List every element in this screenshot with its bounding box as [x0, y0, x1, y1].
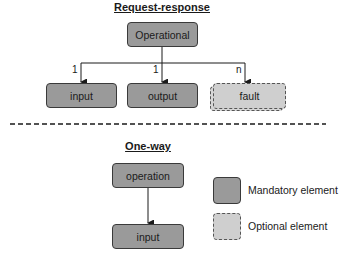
output-node: output [127, 83, 198, 108]
legend-mandatory-swatch [213, 177, 241, 204]
legend-mandatory-label: Mandatory element [248, 184, 338, 196]
one-way-input-node: input [112, 224, 184, 249]
input-node: input [46, 83, 117, 108]
fault-multiplicity: n [236, 64, 242, 75]
operation-node: operation [112, 163, 184, 188]
operational-label: Operational [135, 29, 189, 41]
operation-label: operation [126, 170, 170, 182]
legend-optional-label: Optional element [248, 220, 327, 232]
fault-label: fault [240, 90, 260, 102]
output-multiplicity: 1 [153, 64, 159, 75]
request-response-title: Request-response [114, 1, 210, 13]
input-label: input [70, 90, 93, 102]
operational-node: Operational [127, 22, 198, 47]
output-label: output [148, 90, 177, 102]
fault-node: fault [213, 83, 286, 109]
one-way-title: One-way [125, 140, 171, 152]
legend-optional-swatch [213, 213, 241, 240]
one-way-input-label: input [137, 231, 160, 243]
input-multiplicity: 1 [72, 64, 78, 75]
